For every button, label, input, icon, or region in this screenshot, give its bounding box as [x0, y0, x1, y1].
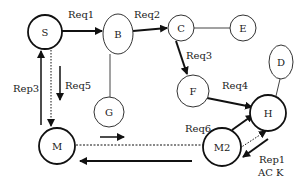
node-f-label: F — [190, 86, 197, 97]
label-rep1: Rep1 — [259, 154, 285, 165]
node-e: E — [230, 15, 256, 41]
node-h-label: H — [264, 108, 273, 119]
node-m-label: M — [52, 141, 62, 152]
node-e-label: E — [239, 23, 246, 34]
network-diagram: S B C E D F G H M M2 Req1 Req2 Req3 Req4… — [0, 0, 307, 184]
edge-req4 — [207, 98, 252, 107]
node-c: C — [168, 15, 194, 41]
node-g-label: G — [105, 107, 113, 118]
edge-dotted-m2-h — [240, 131, 266, 148]
label-req3: Req3 — [186, 50, 212, 61]
node-g: G — [94, 97, 124, 127]
node-b-label: B — [114, 29, 121, 40]
edge-req2 — [133, 28, 167, 31]
label-req5: Req5 — [65, 80, 91, 91]
node-c-label: C — [177, 23, 185, 34]
label-req1: Req1 — [68, 9, 94, 20]
node-d: D — [269, 45, 293, 79]
label-req4: Req4 — [222, 80, 248, 91]
label-rep3: Rep3 — [13, 83, 39, 94]
node-h: H — [250, 95, 286, 131]
node-d-label: D — [277, 57, 285, 68]
node-s: S — [28, 15, 62, 49]
label-req2: Req2 — [134, 9, 160, 20]
node-f: F — [177, 75, 209, 107]
label-ack: AC K — [257, 167, 284, 178]
edge-d-h — [276, 79, 280, 96]
node-m2-label: M2 — [214, 142, 231, 153]
node-s-label: S — [42, 27, 49, 38]
node-b: B — [103, 14, 133, 54]
label-req6: Req6 — [185, 123, 211, 134]
node-m: M — [39, 128, 75, 164]
